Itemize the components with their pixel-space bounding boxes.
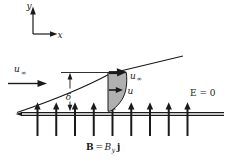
- coordinate-axes: y x: [25, 1, 62, 40]
- velocity-profile: u∞ u: [108, 68, 142, 111]
- delta-down-arrowhead-icon: [68, 105, 73, 111]
- field-arrow: [128, 102, 134, 136]
- field-arrow: [91, 102, 97, 136]
- equals-sign: =: [96, 142, 104, 152]
- electric-field-label: E = 0: [190, 88, 216, 98]
- field-arrow: [53, 102, 59, 136]
- delta-label: δ: [66, 92, 71, 102]
- freestream-arrowhead-icon: [38, 80, 48, 87]
- freestream-label-base: u: [14, 64, 20, 74]
- field-arrow: [34, 102, 40, 136]
- field-arrow: [166, 102, 172, 136]
- diagram-canvas: y x u∞ δ: [0, 0, 234, 164]
- mhd-boundary-layer-figure: y x u∞ δ: [0, 0, 234, 164]
- freestream-velocity: u∞: [8, 64, 47, 87]
- profile-uinf-label-base: u: [130, 71, 136, 81]
- x-axis-label: x: [57, 30, 62, 40]
- profile-uinf-label-sub: ∞: [137, 75, 142, 83]
- x-axis-arrowhead-icon: [50, 31, 58, 37]
- profile-u-label: u: [128, 86, 134, 96]
- field-arrow: [184, 102, 190, 136]
- field-arrow: [72, 102, 78, 136]
- freestream-label: u∞: [14, 64, 26, 77]
- j-unit-vector-symbol: j: [116, 142, 120, 152]
- b-component-symbol: B: [104, 142, 112, 152]
- profile-uinf-label: u∞: [130, 71, 142, 84]
- magnetic-field-equation: B=Byj: [86, 142, 120, 155]
- b-component-subscript: y: [111, 146, 116, 154]
- flat-plate: [16, 112, 225, 116]
- b-vector-symbol: B: [86, 142, 94, 152]
- y-axis-label: y: [25, 1, 32, 11]
- field-arrow: [147, 102, 153, 136]
- freestream-label-sub: ∞: [21, 69, 26, 77]
- delta-up-arrowhead-icon: [68, 73, 73, 80]
